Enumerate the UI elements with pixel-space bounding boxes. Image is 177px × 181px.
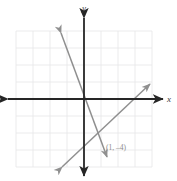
coordinate-plane-figure: y x (1, –4) (0, 0, 177, 181)
intersection-point-label: (1, –4) (106, 143, 126, 152)
x-axis-label: x (166, 94, 171, 104)
graph-canvas: y x (1, –4) (0, 0, 177, 181)
y-axis-label: y (81, 3, 86, 13)
